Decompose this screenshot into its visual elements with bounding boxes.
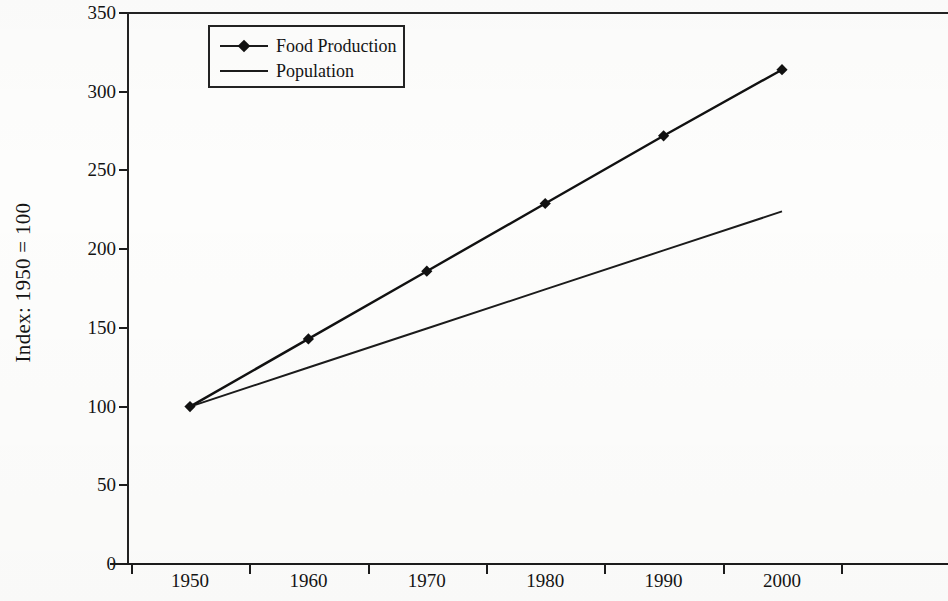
x-axis-tick-label: 1970	[408, 570, 446, 592]
chart-figure: Index: 1950 = 100 350300250200150100500 …	[0, 0, 948, 601]
legend-item-population: Population	[218, 60, 354, 82]
x-axis-tick-label: 2000	[763, 570, 801, 592]
data-point-marker	[303, 333, 314, 344]
legend-label-population: Population	[276, 61, 354, 82]
data-point-marker	[658, 130, 669, 141]
legend-label-food-production: Food Production	[276, 36, 397, 57]
x-axis-tick-label: 1950	[171, 570, 209, 592]
data-point-marker	[776, 64, 787, 75]
x-axis-tick-label: 1960	[289, 570, 327, 592]
data-point-marker	[184, 401, 195, 412]
x-axis-tick-label: 1990	[645, 570, 683, 592]
data-point-marker	[540, 198, 551, 209]
series-line-food-production	[190, 70, 782, 407]
legend-item-food-production: Food Production	[218, 35, 397, 57]
legend-marker-diamond-icon	[218, 38, 270, 54]
data-point-marker	[421, 266, 432, 277]
plot-series-layer	[0, 0, 948, 601]
x-axis-tick-label: 1980	[526, 570, 564, 592]
chart-legend: Food Production Population	[208, 25, 405, 88]
series-line-population	[190, 211, 782, 406]
legend-line-icon	[218, 63, 270, 79]
